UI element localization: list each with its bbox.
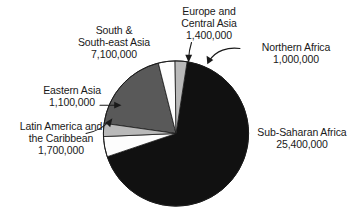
label-text-line1: Sub-Saharan Africa [252,126,352,138]
label-text-line2: the Caribbean [2,132,120,144]
label-value: 1,400,000 [163,29,255,41]
label-value: 1,100,000 [24,96,120,108]
label-text-line2: Central Asia [163,17,255,29]
pie-chart-figure: Europe and Central Asia 1,400,000 Northe… [0,0,353,216]
label-value: 7,100,000 [60,48,168,60]
label-value: 25,400,000 [252,138,352,150]
label-value: 1,000,000 [242,53,350,65]
label-value: 1,700,000 [2,144,120,156]
label-text-line1: Latin America and [2,120,120,132]
label-text-line1: Northern Africa [242,41,350,53]
slice-label-europe-central-asia: Europe and Central Asia 1,400,000 [163,5,255,42]
slice-label-eastern-asia: Eastern Asia 1,100,000 [24,84,120,108]
slice-label-subsaharan-africa: Sub-Saharan Africa 25,400,000 [252,126,352,150]
leader-line-northern-africa [210,48,241,60]
label-text-line1: Eastern Asia [24,84,120,96]
label-text-line2: South-east Asia [60,36,168,48]
label-text-line1: South & [60,24,168,36]
slice-label-northern-africa: Northern Africa 1,000,000 [242,41,350,65]
label-text-line1: Europe and [163,5,255,17]
slice-label-south-southeast-asia: South & South-east Asia 7,100,000 [60,24,168,61]
slice-label-latin-america-caribbean: Latin America and the Caribbean 1,700,00… [2,120,120,157]
pie-slices [103,61,248,206]
